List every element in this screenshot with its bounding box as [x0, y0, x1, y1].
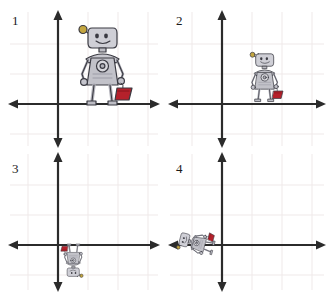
- panel-1-arrowheads: [8, 10, 160, 148]
- panel-2-axes: [174, 16, 320, 142]
- panel-4-grid: [164, 148, 327, 296]
- panel-3-grid: [0, 148, 163, 296]
- panel-3-arrowheads: [8, 152, 160, 292]
- worksheet: 1: [0, 0, 327, 296]
- panel-1[interactable]: 1: [0, 0, 163, 148]
- panel-1-axes: [14, 16, 154, 142]
- panel-4-axes: [174, 158, 320, 286]
- panel-1-grid: [0, 0, 163, 148]
- panel-4[interactable]: 4: [164, 148, 327, 296]
- panel-3[interactable]: 3: [0, 148, 163, 296]
- panel-3-axes: [14, 158, 154, 286]
- panel-2[interactable]: 2: [164, 0, 327, 148]
- panel-2-grid: [164, 0, 327, 148]
